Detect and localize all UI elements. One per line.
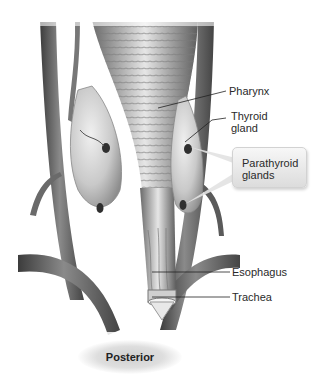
thyroid-left-lobe [70,86,121,207]
parathyroid-right-upper [184,144,192,154]
view-label-posterior: Posterior [78,340,182,374]
callout-parathyroid-glands: Parathyroid glands [232,147,307,188]
thyroid-posterior-illustration [0,0,324,389]
label-thyroid-gland: Thyroid gland [231,110,268,134]
label-trachea: Trachea [232,291,272,303]
esophagus [140,188,176,290]
view-label-text: Posterior [106,351,154,363]
parathyroid-left-lower [97,203,104,213]
anatomy-figure: Pharynx Thyroid gland Parathyroid glands… [0,0,324,389]
label-esophagus: Esophagus [232,266,287,278]
parathyroid-right-lower [180,200,187,210]
label-parathyroid-glands: Parathyroid glands [242,157,298,181]
label-pharynx: Pharynx [229,85,269,97]
